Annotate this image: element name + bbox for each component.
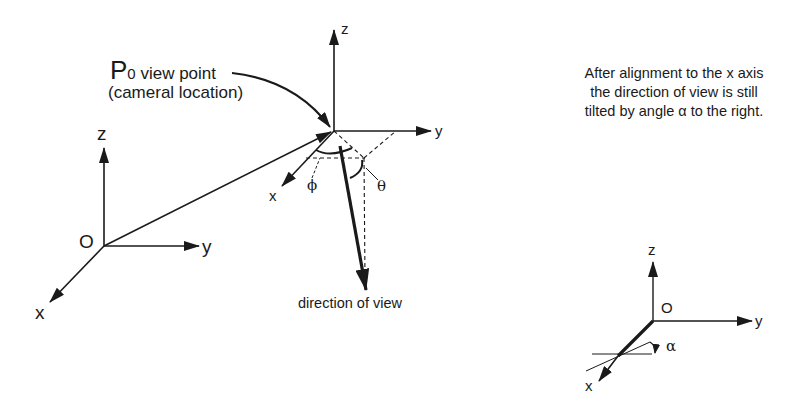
note-line-3: tilted by angle α to the right. — [569, 102, 779, 121]
theta-label: θ — [377, 179, 386, 194]
left-y-label: y — [202, 237, 212, 256]
tilted-reference — [586, 342, 650, 371]
p0-viewpoint-label: P0 view point — [110, 57, 216, 83]
right-x-axis — [599, 356, 618, 381]
right-coordinate-frame — [586, 262, 752, 381]
left-x-label: x — [35, 303, 45, 322]
right-z-label: z — [648, 242, 656, 257]
right-x-label: x — [585, 378, 593, 393]
phi-label: ϕ — [307, 178, 317, 193]
camera-location-label: (cameral location) — [108, 84, 243, 101]
right-y-label: y — [755, 313, 763, 328]
p0-symbol: P — [110, 55, 127, 85]
theta-arc — [350, 160, 362, 178]
left-coordinate-frame — [50, 132, 331, 302]
p0-pointer-arrow — [232, 73, 330, 127]
right-origin-label: O — [661, 300, 673, 315]
alpha-label: α — [666, 339, 676, 354]
direction-of-view-label: direction of view — [298, 296, 402, 311]
left-z-label: z — [97, 124, 107, 143]
phi-arc — [316, 148, 352, 154]
p0-subscript: 0 — [127, 65, 135, 82]
note-line-2: the direction of view is still — [569, 83, 779, 102]
alpha-arc — [650, 342, 655, 353]
p0-text: view point — [136, 64, 216, 83]
vp-y-label: y — [435, 123, 443, 138]
note-line-1: After alignment to the x axis — [569, 64, 779, 83]
position-vector — [104, 132, 331, 246]
left-x-axis — [50, 246, 104, 302]
viewpoint-coordinate-frame — [232, 30, 431, 290]
right-x-axis-thick — [618, 321, 653, 356]
vp-x-label: x — [269, 188, 277, 203]
vp-z-label: z — [341, 21, 349, 36]
left-origin-label: O — [79, 232, 94, 251]
alignment-note: After alignment to the x axis the direct… — [569, 64, 779, 121]
phi-pointer — [312, 158, 320, 178]
